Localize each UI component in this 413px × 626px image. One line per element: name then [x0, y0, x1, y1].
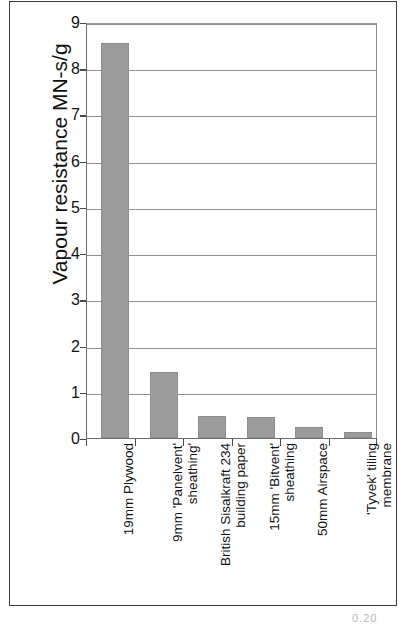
x-axis-tick-label-line: membrane [379, 443, 394, 593]
y-axis-tick-label: 7 [62, 107, 80, 123]
bar [150, 372, 178, 438]
bar [101, 43, 129, 438]
bar [295, 427, 323, 438]
y-axis-tick-labels: 9876543210 [56, 23, 80, 439]
x-axis-tick-label-line: 50mm Airspace [315, 443, 330, 536]
y-axis-tick-label: 8 [62, 61, 80, 77]
x-axis-tick-label-line: 15mm 'Bitvent' [267, 443, 282, 531]
x-axis-tick-label: 19mm Plywood [121, 443, 136, 593]
x-axis-tick-label: British Sisalkraft 234building paper [218, 443, 248, 593]
x-axis-tick-label-line: 'Tyvek' tiling [364, 443, 379, 515]
x-axis-tick-label-line: British Sisalkraft 234 [218, 443, 233, 566]
page-corner-number: 0.20 [352, 612, 377, 624]
y-axis-tick-label: 5 [62, 200, 80, 216]
x-axis-tick-label-line: building paper [233, 443, 248, 593]
x-axis-tick-label-line: 19mm Plywood [121, 443, 136, 535]
x-axis-tick-label-line: sheathing' [185, 443, 200, 593]
y-axis-tick-label: 3 [62, 292, 80, 308]
bar [344, 432, 372, 438]
figure-frame: Vapour resistance MN-s/g 9876543210 19mm… [9, 1, 397, 606]
y-axis-tick-label: 2 [62, 339, 80, 355]
x-axis-tick-mark [86, 439, 87, 446]
x-axis-tick-label-line: 9mm 'Panelvent' [170, 443, 185, 542]
x-axis-tick-label: 9mm 'Panelvent'sheathing' [170, 443, 200, 593]
y-axis-tick-label: 0 [62, 431, 80, 447]
y-axis-tick-label: 9 [62, 15, 80, 31]
x-axis-tick-label: 15mm 'Bitvent'sheathing [267, 443, 297, 593]
x-axis-tick-label-line: sheathing [282, 443, 297, 593]
bar [247, 417, 275, 438]
y-axis-tick-label: 1 [62, 385, 80, 401]
x-axis-tick-label: 'Tyvek' tilingmembrane [364, 443, 394, 593]
bars-layer [87, 24, 376, 438]
x-axis-tick-label: 50mm Airspace [315, 443, 330, 593]
x-axis-tick-labels: 19mm Plywood9mm 'Panelvent'sheathing'Bri… [86, 447, 377, 597]
y-axis-tick-label: 6 [62, 154, 80, 170]
plot-area [86, 23, 377, 439]
bar [198, 416, 226, 438]
y-axis-tick-label: 4 [62, 246, 80, 262]
